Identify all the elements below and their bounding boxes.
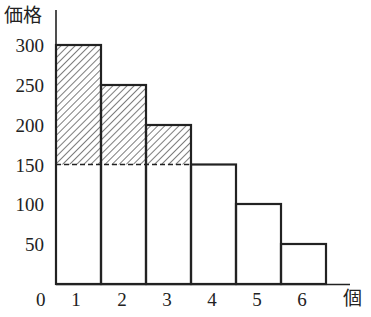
y-axis-title: 価格 [4,6,42,25]
x-tick-1: 1 [66,290,86,309]
bar-4 [191,165,236,285]
x-tick-2: 2 [112,290,132,309]
bar-6 [281,244,326,284]
y-tick-200: 200 [0,116,44,135]
y-tick-250: 250 [0,76,44,95]
y-tick-300: 300 [0,36,44,55]
x-tick-6: 6 [292,290,312,309]
x-tick-4: 4 [202,290,222,309]
origin-label: 0 [36,290,46,309]
hatched-surplus-region [56,45,191,165]
x-tick-5: 5 [247,290,267,309]
x-tick-3: 3 [157,290,177,309]
chart-canvas [0,0,371,317]
y-tick-50: 50 [0,235,44,254]
x-axis-title: 個 [343,289,362,308]
y-tick-100: 100 [0,195,44,214]
y-tick-150: 150 [0,156,44,175]
bar-5 [236,204,281,284]
